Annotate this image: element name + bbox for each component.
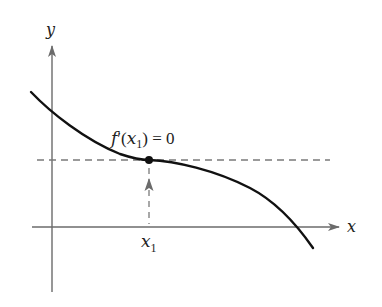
y-axis-label: y xyxy=(45,20,56,39)
critical-point xyxy=(145,156,153,164)
x1-label: x1 xyxy=(141,231,157,255)
diagram-canvas: y x f′(x1) = 0 x1 xyxy=(0,0,382,307)
derivative-label: f′(x1) = 0 xyxy=(109,128,175,151)
derivative-diagram: y x f′(x1) = 0 x1 xyxy=(0,0,382,307)
up-arrow-icon xyxy=(145,178,154,191)
x-axis-label: x xyxy=(347,217,356,236)
function-curve xyxy=(31,92,313,248)
